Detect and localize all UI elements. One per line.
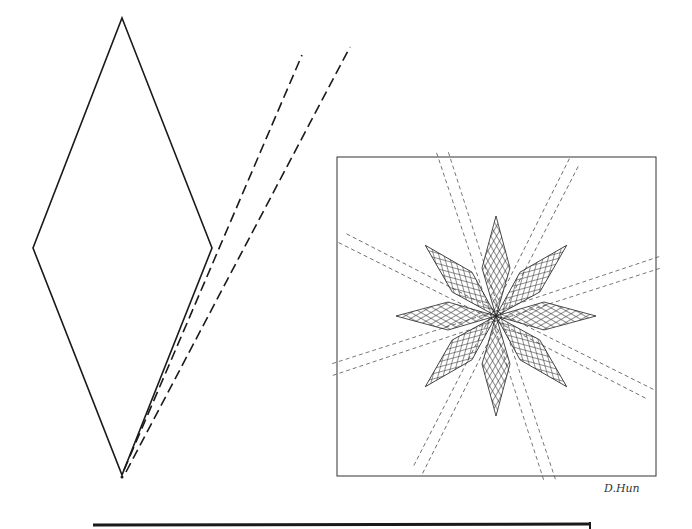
quilt-diagram	[0, 0, 692, 529]
bottom-box	[93, 522, 590, 529]
artist-signature: D.Hun	[604, 482, 640, 495]
diamond-template	[33, 18, 350, 479]
star-block	[331, 151, 661, 481]
